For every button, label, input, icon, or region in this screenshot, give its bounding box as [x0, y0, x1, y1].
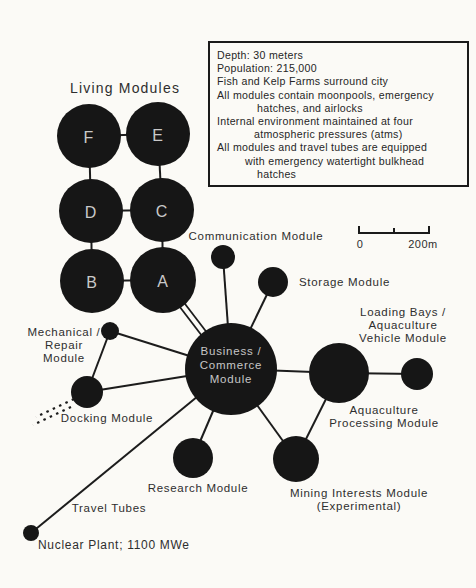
nuclear-plant-circle: [23, 525, 39, 541]
info-line-equipped: All modules and travel tubes are equippe…: [217, 141, 463, 154]
info-line-pressures: atmospheric pressures (atms): [217, 128, 463, 141]
letter-c: C: [156, 203, 169, 220]
business-commerce-module-label: Business / Commerce Module: [200, 344, 263, 386]
info-line-moonpools: All modules contain moonpools, emergency: [217, 89, 463, 102]
docking-module-label: Docking Module: [61, 412, 153, 425]
info-line-population: Population: 215,000: [217, 62, 463, 75]
letter-d: D: [85, 204, 98, 221]
info-line-environment: Internal environment maintained at four: [217, 115, 463, 128]
nuclear-plant-label: Nuclear Plant; 1100 MWe: [38, 539, 190, 552]
letter-b: B: [86, 274, 98, 291]
mining-module-circle: [273, 436, 319, 482]
business-label-line2: Commerce: [200, 358, 263, 372]
research-module-circle: [173, 438, 213, 478]
scale-bar-start-label: 0: [357, 238, 364, 251]
info-line-bulkhead: with emergency watertight bulkhead: [217, 155, 463, 168]
business-label-line3: Module: [200, 372, 263, 386]
aquaculture-processing-module-label: Aquaculture Processing Module: [329, 404, 439, 430]
info-line-depth: Depth: 30 meters: [217, 49, 463, 62]
business-label-line1: Business /: [200, 344, 263, 358]
info-box: Depth: 30 meters Population: 215,000 Fis…: [208, 41, 469, 187]
living-modules-title: Living Modules: [70, 82, 180, 95]
info-line-hatches: hatches, and airlocks: [217, 102, 463, 115]
letter-e: E: [152, 127, 164, 144]
info-line-farms: Fish and Kelp Farms surround city: [217, 75, 463, 88]
mining-interests-module-label: Mining Interests Module (Experimental): [290, 487, 428, 513]
loading-bays-module-circle: [401, 358, 433, 390]
info-line-hatches2: hatches: [217, 168, 463, 181]
loading-bays-module-label: Loading Bays / Aquaculture Vehicle Modul…: [359, 306, 447, 345]
travel-tubes-label: Travel Tubes: [72, 502, 146, 515]
storage-module-circle: [258, 267, 288, 297]
letter-f: F: [84, 129, 95, 146]
storage-module-label: Storage Module: [299, 276, 390, 289]
letter-a: A: [157, 273, 169, 290]
mechanical-repair-module-circle: [101, 322, 119, 340]
communication-module-label: Communication Module: [189, 230, 324, 243]
research-module-label: Research Module: [148, 482, 249, 495]
docking-module-circle: [71, 376, 103, 408]
aquaculture-processing-module-circle: [309, 343, 369, 403]
undersea-city-diagram: F E D C B A Depth: 30 meters Population:…: [0, 0, 476, 588]
communication-module-circle: [211, 245, 235, 269]
mechanical-repair-module-label: Mechanical / Repair Module: [28, 326, 101, 365]
scale-bar-end-label: 200m: [408, 238, 438, 251]
scale-bar: [358, 226, 430, 234]
